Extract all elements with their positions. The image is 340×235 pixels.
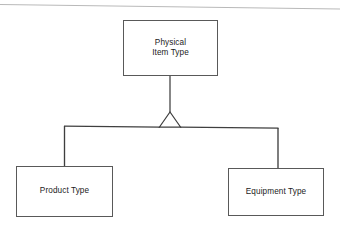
connector-horizontal-bar-left bbox=[64, 126, 160, 127]
diagram-svg bbox=[0, 0, 340, 235]
node-box-physical-item-type[interactable] bbox=[124, 21, 218, 76]
top-scan-rule bbox=[0, 5, 340, 10]
connector-horizontal-bar-right bbox=[180, 127, 279, 128]
generalization-triangle-icon bbox=[160, 112, 181, 127]
diagram-canvas: Physical Item Type Product Type Equipmen… bbox=[0, 0, 340, 235]
node-box-product-type[interactable] bbox=[17, 167, 113, 217]
node-box-equipment-type[interactable] bbox=[229, 169, 324, 216]
